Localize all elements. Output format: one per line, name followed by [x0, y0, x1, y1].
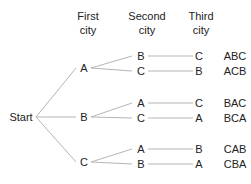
- route-label: ACB: [224, 65, 247, 77]
- route-label: CAB: [224, 143, 247, 155]
- route-label: BAC: [224, 97, 247, 109]
- route-label: CBA: [224, 158, 247, 170]
- root-node: Start: [9, 111, 32, 123]
- third-node: B: [195, 143, 202, 155]
- second-node: C: [137, 112, 145, 124]
- first-node: A: [80, 62, 87, 74]
- second-node: C: [137, 65, 145, 77]
- route-label: ABC: [224, 50, 247, 62]
- header-line: First: [77, 9, 98, 23]
- second-node: A: [137, 143, 144, 155]
- third-node: A: [195, 158, 202, 170]
- header-third-city: Third city: [188, 9, 213, 37]
- header-line: city: [77, 23, 98, 37]
- header-line: Second: [128, 9, 165, 23]
- third-node: A: [195, 112, 202, 124]
- header-line: city: [128, 23, 165, 37]
- third-node: B: [195, 65, 202, 77]
- header-line: Third: [188, 9, 213, 23]
- third-node: C: [195, 97, 203, 109]
- first-node: C: [80, 156, 88, 168]
- first-node: B: [80, 111, 87, 123]
- route-label: BCA: [224, 112, 247, 124]
- second-node: B: [137, 50, 144, 62]
- header-first-city: First city: [77, 9, 98, 37]
- tree-diagram: First city Second city Third city Start …: [0, 0, 251, 184]
- header-line: city: [188, 23, 213, 37]
- second-node: A: [137, 97, 144, 109]
- header-second-city: Second city: [128, 9, 165, 37]
- second-node: B: [137, 158, 144, 170]
- third-node: C: [195, 50, 203, 62]
